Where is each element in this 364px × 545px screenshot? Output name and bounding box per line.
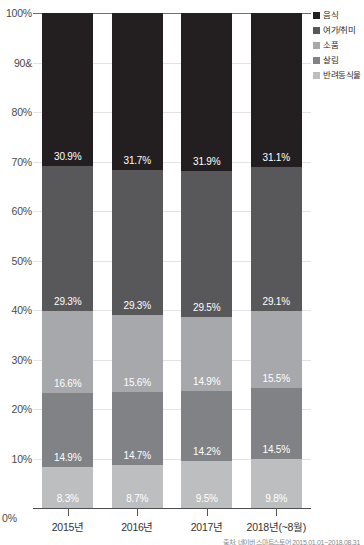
- legend-item[interactable]: 살림: [313, 55, 364, 65]
- y-tick-label-30: 30%: [12, 354, 32, 366]
- legend-label: 살림: [323, 56, 338, 65]
- bar-segment[interactable]: 9.5%: [181, 461, 232, 508]
- chart-footnote: 출처: 네이버 스마트스토어 2015.01.01~2018.08.31: [223, 537, 360, 545]
- bar-segment[interactable]: 31.1%: [251, 13, 302, 167]
- stacked-bar-chart: 100%90&80%70%60%50%40%30%20%10% 30.9%29.…: [0, 0, 364, 545]
- legend-item[interactable]: 여가/취미: [313, 25, 364, 35]
- y-tick-label-90: 90&: [14, 57, 32, 69]
- x-tick-mark: [207, 508, 208, 516]
- chart-legend: 음식여가/취미소품살림반려동식물: [313, 10, 364, 85]
- y-tick-label-60: 60%: [12, 205, 32, 217]
- bar-column[interactable]: 30.9%29.3%16.6%14.9%8.3%: [42, 13, 93, 508]
- bar-segment[interactable]: 15.6%: [112, 315, 163, 392]
- x-tick-mark: [276, 508, 277, 516]
- y-tick-label-40: 40%: [12, 304, 32, 316]
- y-tick-label-80: 80%: [12, 106, 32, 118]
- bar-value-label: 15.6%: [124, 378, 151, 392]
- y-tick-label-zero: 0%: [2, 512, 17, 524]
- legend-item[interactable]: 소품: [313, 40, 364, 50]
- y-axis: 100%90&80%70%60%50%40%30%20%10%: [0, 0, 36, 545]
- bar-segment[interactable]: 14.7%: [112, 392, 163, 465]
- bar-value-label: 9.5%: [196, 494, 218, 508]
- bar-segment[interactable]: 29.5%: [181, 171, 232, 317]
- bar-segment[interactable]: 16.6%: [42, 311, 93, 393]
- bar-value-label: 30.9%: [54, 152, 81, 166]
- bar-segment[interactable]: 15.5%: [251, 311, 302, 388]
- legend-swatch-icon: [313, 57, 320, 64]
- legend-swatch-icon: [313, 72, 320, 79]
- bar-segment[interactable]: 29.3%: [112, 170, 163, 315]
- bar-value-label: 31.7%: [124, 156, 151, 170]
- bar-value-label: 14.2%: [193, 447, 220, 461]
- bar-column[interactable]: 31.9%29.5%14.9%14.2%9.5%: [181, 13, 232, 508]
- legend-label: 여가/취미: [323, 26, 355, 35]
- bar-segment[interactable]: 14.9%: [42, 393, 93, 467]
- x-tick-mark: [137, 508, 138, 516]
- bar-value-label: 14.9%: [54, 453, 81, 467]
- bar-value-label: 9.8%: [265, 494, 287, 508]
- bar-segment[interactable]: 31.7%: [112, 13, 163, 170]
- bar-column[interactable]: 31.1%29.1%15.5%14.5%9.8%: [251, 13, 302, 508]
- bar-segment[interactable]: 8.3%: [42, 467, 93, 508]
- legend-swatch-icon: [313, 12, 320, 19]
- bar-value-label: 14.5%: [263, 445, 290, 459]
- x-tick-label: 2018년(~8월): [247, 519, 306, 534]
- bar-segment[interactable]: 8.7%: [112, 465, 163, 508]
- legend-swatch-icon: [313, 27, 320, 34]
- x-tick-label: 2016년: [121, 519, 153, 534]
- y-tick-label-50: 50%: [12, 255, 32, 267]
- legend-item[interactable]: 음식: [313, 10, 364, 20]
- bar-segment[interactable]: 14.5%: [251, 388, 302, 460]
- bar-value-label: 29.1%: [263, 297, 290, 311]
- bar-value-label: 15.5%: [263, 374, 290, 388]
- bar-value-label: 29.3%: [54, 297, 81, 311]
- bar-value-label: 8.7%: [126, 494, 148, 508]
- bar-segment[interactable]: 14.2%: [181, 391, 232, 461]
- plot-area: 30.9%29.3%16.6%14.9%8.3%31.7%29.3%15.6%1…: [33, 13, 311, 508]
- bar-segment[interactable]: 29.3%: [42, 166, 93, 311]
- y-tick-label-10: 10%: [12, 453, 32, 465]
- bar-value-label: 31.1%: [263, 153, 290, 167]
- bar-segment[interactable]: 9.8%: [251, 459, 302, 508]
- legend-label: 소품: [323, 41, 338, 50]
- legend-swatch-icon: [313, 42, 320, 49]
- bar-value-label: 14.7%: [124, 451, 151, 465]
- y-tick-label-100: 100%: [6, 7, 32, 19]
- legend-label: 음식: [323, 11, 338, 20]
- bar-segment[interactable]: 31.9%: [181, 13, 232, 171]
- x-tick-label: 2015년: [52, 519, 84, 534]
- y-tick-label-20: 20%: [12, 403, 32, 415]
- bar-value-label: 29.5%: [193, 303, 220, 317]
- legend-item[interactable]: 반려동식물: [313, 70, 364, 80]
- y-tick-label-70: 70%: [12, 156, 32, 168]
- bar-value-label: 14.9%: [193, 377, 220, 391]
- legend-label: 반려동식물: [323, 71, 361, 80]
- bar-segment[interactable]: 29.1%: [251, 167, 302, 311]
- bar-value-label: 31.9%: [193, 157, 220, 171]
- bar-value-label: 8.3%: [57, 494, 79, 508]
- bar-value-label: 29.3%: [124, 301, 151, 315]
- bar-segment[interactable]: 14.9%: [181, 317, 232, 391]
- bar-column[interactable]: 31.7%29.3%15.6%14.7%8.7%: [112, 13, 163, 508]
- bar-segment[interactable]: 30.9%: [42, 13, 93, 166]
- x-tick-mark: [68, 508, 69, 516]
- bar-value-label: 16.6%: [54, 379, 81, 393]
- x-tick-label: 2017년: [191, 519, 223, 534]
